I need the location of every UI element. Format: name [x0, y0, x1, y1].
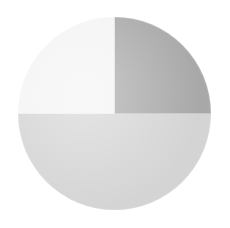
pie-slice-top-left[interactable]	[18, 17, 115, 114]
pie-chart-svg	[18, 17, 211, 210]
pie-chart-figure: Slice 1 Slice 2 Slice 3	[0, 0, 230, 228]
pie-chart-canvas	[18, 17, 211, 210]
pie-slice-bottom-half[interactable]	[18, 114, 211, 211]
pie-slice-top-right[interactable]	[115, 17, 212, 114]
